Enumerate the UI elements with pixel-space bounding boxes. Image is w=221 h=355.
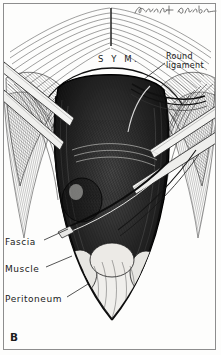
- leader-peritoneum: [67, 284, 88, 297]
- leader-muscle: [46, 256, 72, 267]
- adnexal-mass: [62, 178, 102, 222]
- figure-plate: S Y M. Round ligament Fascia Muscle Peri…: [0, 0, 221, 355]
- figure-panel-label: B: [10, 332, 18, 343]
- exposed-viscera: [63, 243, 162, 318]
- label-symphysis: S Y M.: [98, 55, 139, 64]
- label-peritoneum: Peritoneum: [5, 295, 62, 305]
- label-muscle: Muscle: [5, 265, 39, 275]
- artist-signature: [132, 2, 218, 18]
- label-fascia: Fascia: [5, 238, 36, 248]
- label-round-ligament: Round ligament: [166, 53, 216, 70]
